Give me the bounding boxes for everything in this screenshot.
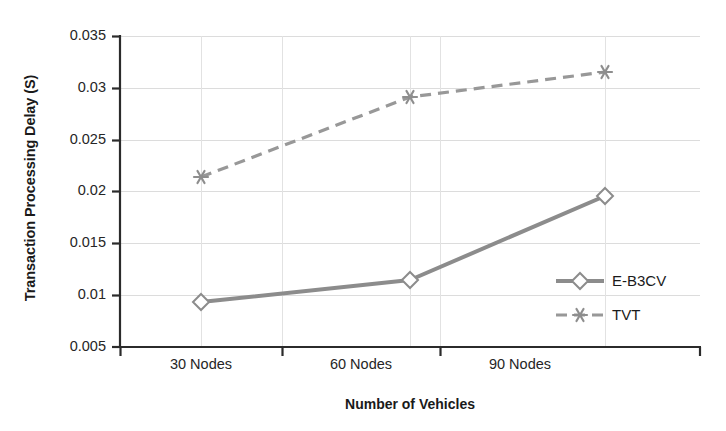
legend-swatches [556, 273, 604, 321]
series-e-b3cv-markers [193, 188, 613, 310]
transaction-processing-delay-chart: Transaction Processing Delay (S) 0.035 0… [0, 0, 726, 431]
legend-swatch-e-b3cv-marker [572, 273, 588, 289]
series-tvt-markers [194, 66, 612, 183]
y-axis [112, 35, 120, 348]
legend-swatch-tvt-marker [573, 309, 587, 321]
legend-label-tvt: TVT [612, 306, 640, 323]
x-axis-title: Number of Vehicles [120, 396, 700, 412]
series-tvt-line [201, 72, 605, 177]
x-tick-label-90-nodes: 90 Nodes [460, 356, 580, 372]
legend-label-e-b3cv: E-B3CV [612, 272, 666, 289]
series-tvt [194, 66, 612, 183]
series-e-b3cv-line [201, 196, 605, 302]
x-axis [119, 347, 701, 356]
x-tick-label-30-nodes: 30 Nodes [141, 356, 261, 372]
x-tick-label-60-nodes: 60 Nodes [301, 356, 421, 372]
series-e-b3cv [193, 188, 613, 310]
